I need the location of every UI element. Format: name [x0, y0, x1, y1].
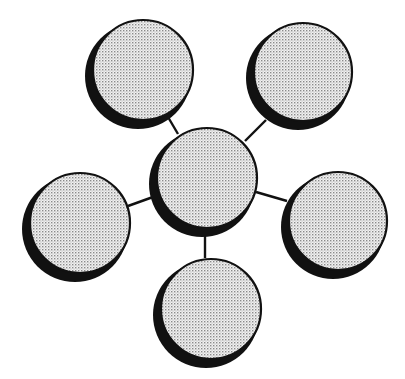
node-circle-top-left: [85, 20, 193, 129]
circle-face: [289, 172, 387, 270]
node-circle-right: [281, 172, 387, 279]
circle-face: [93, 20, 193, 120]
connector-left: [128, 197, 153, 206]
connector-top-right: [245, 120, 266, 141]
node-circle-top-right: [246, 23, 352, 130]
circle-face: [30, 173, 130, 273]
circle-face: [254, 23, 352, 121]
hub-circle: [149, 128, 257, 237]
connector-right: [256, 192, 287, 201]
circle-nodes: [22, 20, 387, 368]
node-circle-bottom: [153, 259, 261, 368]
node-circle-left: [22, 173, 130, 282]
connector-top-left: [168, 117, 178, 134]
circle-face: [161, 259, 261, 359]
circle-face: [157, 128, 257, 228]
hub-spoke-diagram: [0, 0, 405, 379]
